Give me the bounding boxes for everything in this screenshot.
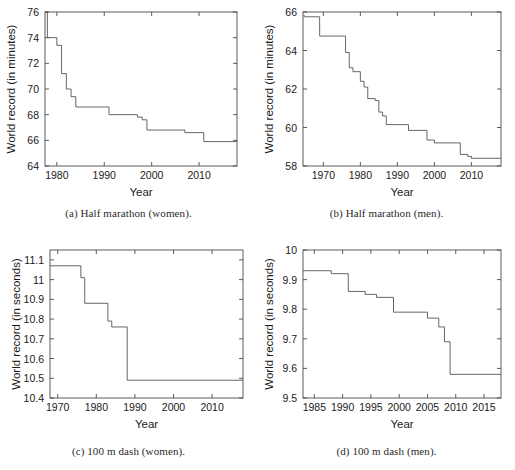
x-axis-title: Year: [390, 418, 413, 430]
y-tick-label: 10.7: [24, 333, 45, 345]
x-tick-label: 1970: [46, 401, 70, 413]
y-axis-title: World record (in seconds): [10, 258, 22, 390]
y-axis-title: World record (in minutes): [5, 24, 17, 153]
y-tick-label: 58: [285, 160, 297, 172]
y-tick-label: 60: [285, 122, 297, 134]
data-step-line: [45, 12, 237, 142]
plot-frame: [303, 12, 501, 166]
x-tick-label: 1985: [303, 401, 327, 413]
panel-c-100m-dash-women: 1970198019902000201010.410.510.610.710.8…: [0, 232, 257, 467]
y-tick-label: 9.7: [282, 333, 297, 345]
x-tick-label: 2005: [416, 401, 440, 413]
x-tick-label: 1990: [93, 169, 117, 181]
y-tick-label: 9.8: [282, 303, 297, 315]
plot-frame: [45, 12, 237, 166]
y-tick-label: 72: [27, 57, 39, 69]
x-tick-label: 2010: [187, 169, 211, 181]
caption-c: (c) 100 m dash (women).: [0, 445, 257, 457]
y-tick-label: 10: [285, 244, 297, 256]
data-step-line: [303, 271, 501, 375]
y-tick-label: 10.6: [24, 353, 45, 365]
y-tick-label: 68: [27, 109, 39, 121]
y-tick-label: 66: [27, 134, 39, 146]
y-tick-label: 9.6: [282, 362, 297, 374]
y-tick-label: 64: [285, 45, 297, 57]
x-axis-title: Year: [390, 186, 413, 198]
x-axis-title: Year: [135, 418, 158, 430]
y-tick-label: 76: [27, 6, 39, 18]
y-tick-label: 10.5: [24, 372, 45, 384]
y-tick-label: 70: [27, 83, 39, 95]
x-tick-label: 2010: [460, 169, 484, 181]
x-tick-label: 2015: [472, 401, 496, 413]
data-step-line: [50, 266, 243, 380]
data-step-line: [303, 16, 501, 158]
x-tick-label: 2000: [387, 401, 411, 413]
y-tick-label: 66: [285, 6, 297, 18]
y-tick-label: 10.8: [24, 313, 45, 325]
panel-a-half-marathon-women: 198019902000201064666870727476YearWorld …: [0, 0, 257, 235]
plot-a: 198019902000201064666870727476YearWorld …: [0, 0, 257, 205]
y-tick-label: 10.4: [24, 392, 45, 404]
x-tick-label: 2010: [200, 401, 224, 413]
plot-b: 197019801990200020105860626466YearWorld …: [258, 0, 515, 205]
panel-d-100m-dash-men: 19851990199520002005201020159.59.69.79.8…: [258, 232, 515, 467]
y-tick-label: 9.5: [282, 392, 297, 404]
plot-d: 19851990199520002005201020159.59.69.79.8…: [258, 232, 515, 437]
y-tick-label: 64: [27, 160, 39, 172]
y-axis-title: World record (in seconds): [263, 258, 275, 390]
panel-b-half-marathon-men: 197019801990200020105860626466YearWorld …: [258, 0, 515, 235]
x-tick-label: 2000: [162, 401, 186, 413]
plot-frame: [303, 250, 501, 398]
x-tick-label: 1970: [312, 169, 336, 181]
y-tick-label: 74: [27, 32, 39, 44]
y-tick-label: 11: [33, 274, 44, 286]
caption-d: (d) 100 m dash (men).: [258, 445, 515, 457]
x-tick-label: 1990: [331, 401, 355, 413]
plot-c: 1970198019902000201010.410.510.610.710.8…: [0, 232, 257, 437]
y-tick-label: 10.9: [24, 293, 45, 305]
y-axis-title: World record (in minutes): [263, 24, 275, 153]
x-tick-label: 2000: [423, 169, 447, 181]
x-axis-title: Year: [129, 186, 152, 198]
x-tick-label: 1990: [123, 401, 147, 413]
x-tick-label: 2000: [140, 169, 164, 181]
plot-frame: [50, 250, 243, 398]
x-tick-label: 1990: [386, 169, 410, 181]
caption-b: (b) Half marathon (men).: [258, 207, 515, 219]
x-tick-label: 1980: [45, 169, 69, 181]
y-tick-label: 11.1: [24, 254, 44, 266]
x-tick-label: 2010: [444, 401, 468, 413]
figure-four-panel-world-records: 198019902000201064666870727476YearWorld …: [0, 0, 515, 470]
x-tick-label: 1980: [85, 401, 109, 413]
caption-a: (a) Half marathon (women).: [0, 207, 257, 219]
y-tick-label: 9.9: [282, 274, 297, 286]
x-tick-label: 1995: [359, 401, 383, 413]
x-tick-label: 1980: [349, 169, 373, 181]
y-tick-label: 62: [285, 83, 297, 95]
